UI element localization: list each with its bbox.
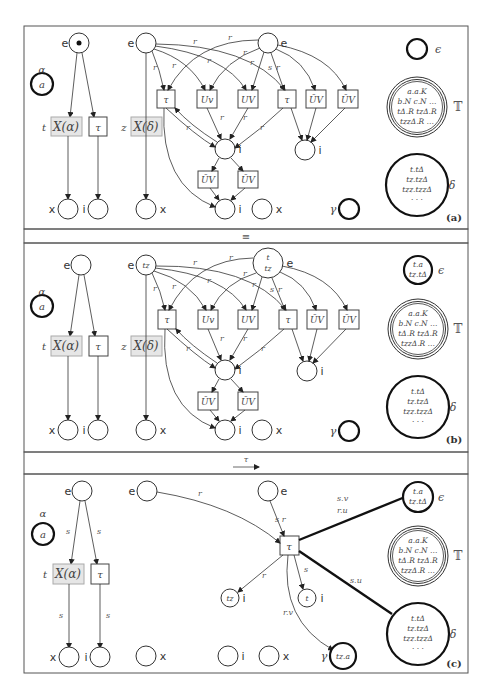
ubarv-label: ŪV [201,174,217,185]
delta-label: δ [450,401,457,414]
transition-x-alpha-label: X(α) [52,339,79,353]
svg-text:r: r [207,276,212,285]
svg-text:s: s [270,285,274,294]
place-e-left [72,481,92,501]
delta-token: tz.tzΔ [407,397,429,406]
epsilon-token: tz.tΔ [409,497,427,506]
epsilon-label: ϵ [438,264,444,277]
delta-label: δ [450,628,457,641]
x-label: x [160,424,167,437]
place-x-2 [259,646,279,666]
epsilon-token: t.a [413,260,423,269]
alpha-label: α [39,64,46,75]
arc-to-epsilon [299,497,405,540]
tau-label: τ [95,341,101,352]
petri-net-figure: ≡ τ α a e X(α) t τ x i e e X(δ) z x [0,0,490,693]
place-i-mid [218,646,238,666]
T-label: 𝕋 [454,549,463,563]
uv-label: UV [241,315,257,325]
edge-label: s [97,527,101,536]
i-label: i [241,650,244,663]
x-label: x [276,424,283,437]
edge-label: r.v [283,608,293,617]
i-label: i [320,592,323,605]
svg-text:r: r [229,253,234,262]
edge-label: s [66,527,70,536]
place-x-mid [136,646,156,666]
delta-token: tzz.tzzΔ [403,407,433,416]
edge-label: s [304,565,308,574]
ubarv-label: ŪV [342,314,358,325]
x-label: x [49,424,56,437]
x-label: x [276,203,283,216]
svg-text:s: s [268,63,272,72]
svg-text:r: r [260,123,265,132]
i-label: i [238,203,241,216]
transition-t-label: t [42,341,47,352]
T-token: tzzΔ.R … [401,566,435,575]
e-label: e [128,259,135,272]
place-i-right [295,140,315,160]
svg-text:r: r [243,269,248,278]
x-label: x [160,650,167,663]
delta-token: tzz.tzzΔ [403,634,433,643]
uv-label: Uv [201,95,214,105]
ubarv-label: ŪV [241,396,257,407]
token: tz [143,261,150,270]
place-epsilon [407,39,427,59]
equivalence-symbol: ≡ [242,231,250,242]
panel-a: α a e X(α) t τ x i e e X(δ) z x τ Uv UV [31,33,463,223]
ubarv-label: ŪV [341,94,357,105]
panel-b: α a e X(α) t τ x i tz e t tz e X(δ) z x … [31,248,463,445]
panel-label: (b) [446,434,462,445]
place-e-left [71,255,91,275]
place-x-mid [136,420,156,440]
gamma-label: γ [330,203,337,216]
epsilon-label: ϵ [435,43,441,56]
svg-text:r: r [172,282,177,291]
place-e-label: e [62,37,69,50]
transition-x-alpha-label: X(α) [52,120,79,134]
T-token: b.N c.N … [398,319,437,328]
x-label: x [49,203,56,216]
epsilon-token: tz.tΔ [409,270,427,279]
svg-text:r: r [186,123,191,132]
i-label: i [238,424,241,437]
T-token: tΔ.R tzΔ.R [398,329,438,338]
delta-token: t.tΔ [411,614,425,623]
T-label: 𝕋 [454,322,463,336]
e-label: e [129,485,136,498]
alpha-token: a [40,529,46,540]
svg-text:r: r [193,258,198,267]
place-i [88,420,108,440]
ubarv-label: ŪV [310,314,326,325]
T-token: tzzΔ.R … [400,117,434,126]
delta-token: · · · [411,195,423,204]
delta-token: · · · [412,644,424,653]
transition-t-label: t [42,122,47,133]
x-label: x [160,203,167,216]
place-e2 [258,33,278,53]
delta-token: t.tΔ [410,165,424,174]
i-label: i [82,424,85,437]
tau-label: τ [97,569,103,580]
T-label: 𝕋 [454,100,463,114]
e2-label: e [281,485,288,498]
e-label: e [128,37,135,50]
place-e-label: e [64,259,71,272]
delta-label: δ [449,179,456,192]
ubarv-label: ŪV [309,94,325,105]
T-token: a.a.K [408,309,428,318]
edge-label: s r [275,515,287,524]
e2-label: e [281,37,288,50]
panel-c: α a e X(α) t τ x i s s s s e e τ r s r [32,481,463,669]
epsilon-label: ϵ [438,491,444,504]
svg-text:r: r [243,113,248,122]
z-label: z [120,122,127,133]
edge-label: s [106,611,110,620]
ubarv-label: ŪV [201,396,217,407]
place-e2 [258,481,278,501]
place-x [58,199,78,219]
epsilon-token: t.a [413,487,423,496]
delta-token: tz.tzΔ [406,175,428,184]
